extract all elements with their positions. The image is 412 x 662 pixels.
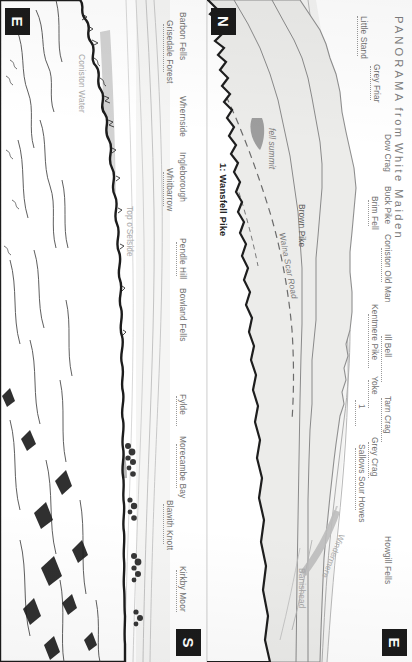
peak-label-brim-fell: Brim Fell (371, 196, 379, 230)
page-title-prefix: PANORAMA (393, 16, 405, 104)
peak-label-howgill-fells: Howgill Fells (384, 536, 392, 584)
page-title: PANORAMA from White Maiden (393, 16, 405, 240)
peak-label-dow-crag: Dow Crag (384, 134, 392, 172)
peak-label-kirkby-moor: Kirkby Moor (179, 566, 187, 612)
page-title-middle: from (393, 108, 405, 140)
southeast-panorama-strip: Barbon Fells Grisedale Forest Whernside … (0, 0, 206, 662)
peak-label-sallows-sour-howes: Sallows Sour Howes (358, 444, 366, 523)
leader-line (176, 570, 177, 612)
northeast-panorama-strip: Little Stand Grey Friar Dow Crag Buck Pi… (206, 0, 412, 662)
panel-divider (206, 0, 207, 662)
peak-label-one: 1 (358, 404, 366, 409)
southeast-skyline-drawing (0, 0, 206, 662)
peak-label-morecambe-bay: Morecambe Bay (179, 436, 187, 498)
leader-line (381, 398, 382, 442)
peak-label-ill-bell: Ill Bell (384, 334, 392, 357)
peak-label-grisedale-forest: Grisedale Forest (166, 20, 174, 84)
peak-label-coniston-old-man: Coniston Old Man (384, 234, 392, 303)
compass-marker-east-lower: E (5, 8, 30, 35)
compass-marker-east: E (382, 629, 407, 656)
peak-label-ingleborough: Ingleborough (179, 152, 187, 202)
leader-line (368, 380, 369, 408)
peak-label-grey-friar: Grey Friar (373, 64, 381, 103)
leader-line (381, 248, 382, 282)
peak-label-tarn-crag: Tarn Crag (384, 396, 392, 434)
leader-line (176, 444, 177, 488)
leader-line (355, 400, 356, 426)
peak-label-grey-crag: Grey Crag (371, 437, 379, 477)
panorama-caption: 1: Wansfell Pike (218, 163, 229, 236)
peak-label-whernside: Whernside (179, 96, 187, 137)
peak-label-bowland-fells: Bowland Fells (179, 288, 187, 341)
leader-line (163, 172, 164, 206)
leader-line (368, 200, 369, 226)
peak-label-kentmere-pike: Kentmere Pike (371, 304, 379, 360)
leader-line (368, 442, 369, 478)
feature-label-coniston-water: Coniston Water (78, 54, 86, 113)
peak-label-fylde: Fylde (179, 394, 187, 415)
leader-line (176, 396, 177, 426)
leader-line (176, 242, 177, 276)
feature-label-top-o-selside: Top o'Selside (126, 206, 134, 257)
feature-label-brown-pike: Brown Pike (298, 204, 306, 247)
feature-label-fell-summit: fell summit (268, 128, 276, 169)
peak-label-yoke: Yoke (371, 376, 379, 395)
leader-line (368, 314, 369, 368)
compass-marker-south: S (176, 629, 201, 656)
peak-label-pendle-hill: Pendle Hill (179, 238, 187, 279)
peak-label-little-stand: Little Stand (360, 16, 368, 59)
leader-line (381, 336, 382, 382)
leader-line (355, 448, 356, 510)
leader-line (163, 24, 164, 72)
scanned-sheet: Little Stand Grey Friar Dow Crag Buck Pi… (0, 0, 412, 662)
leader-line (357, 16, 358, 56)
feature-label-banishead: Banishead (298, 568, 306, 608)
peak-label-buck-pike: Buck Pike (384, 186, 392, 224)
leader-line (370, 66, 371, 100)
peak-label-whitbarrow: Whitbarrow (166, 168, 174, 211)
leader-line (163, 504, 164, 544)
compass-marker-north: N (211, 8, 236, 35)
peak-label-blawith-knott: Blawith Knott (166, 500, 174, 550)
panorama-page: Little Stand Grey Friar Dow Crag Buck Pi… (0, 0, 412, 662)
page-title-suffix: White Maiden (393, 143, 405, 240)
peak-label-barbon-fells: Barbon Fells (179, 12, 187, 60)
